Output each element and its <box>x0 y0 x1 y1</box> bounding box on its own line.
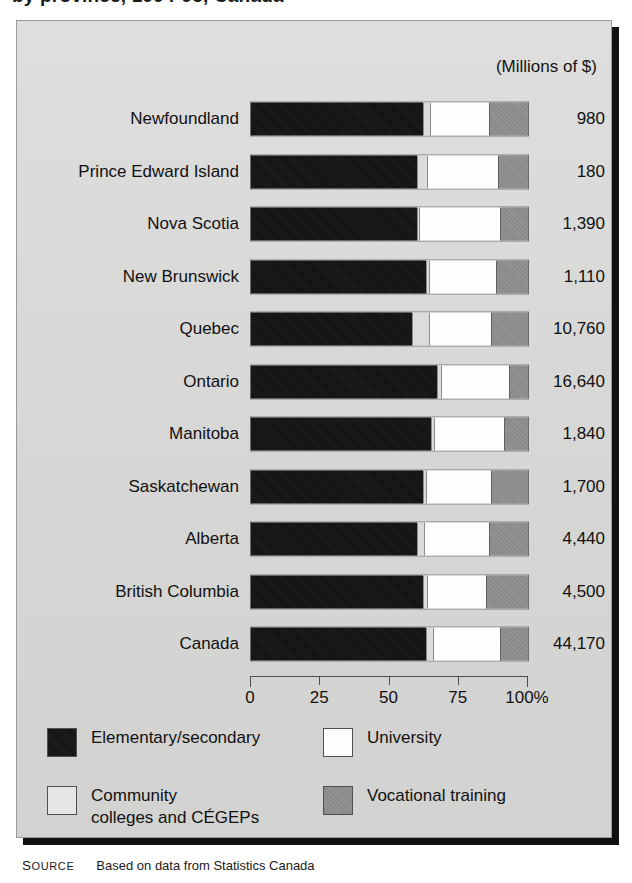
bar-segment-community <box>423 103 431 136</box>
bar-segment-vocational <box>500 208 528 241</box>
axis-tick-label: 50 <box>379 688 398 708</box>
legend-item-university: University <box>323 727 442 757</box>
axis-tick-label: 100% <box>505 688 548 708</box>
chart-legend: Elementary/secondary University Communit… <box>41 727 589 843</box>
bar-row: Manitoba1,840 <box>17 408 613 461</box>
bar-segment-community <box>426 628 434 661</box>
bar-segment-vocational <box>486 575 528 608</box>
bar-row: Alberta4,440 <box>17 513 613 566</box>
stacked-bar <box>250 312 529 347</box>
legend-label-vocational: Vocational training <box>367 785 506 807</box>
bar-row-label: Saskatchewan <box>17 477 239 497</box>
bar-row-value: 180 <box>533 162 605 182</box>
stacked-bar <box>250 207 529 242</box>
bar-row: Ontario16,640 <box>17 356 613 409</box>
source-text: Based on data from Statistics Canada <box>96 858 314 873</box>
bar-row-label: Manitoba <box>17 424 239 444</box>
bar-row-label: Newfoundland <box>17 109 239 129</box>
bar-row-value: 1,700 <box>533 477 605 497</box>
stacked-bar <box>250 469 529 504</box>
bar-segment-university <box>442 365 508 398</box>
bar-segment-elementary <box>251 103 423 136</box>
bar-segment-university <box>434 628 500 661</box>
bar-segment-elementary <box>251 628 426 661</box>
bar-row-value: 1,390 <box>533 214 605 234</box>
bar-segment-vocational <box>500 628 528 661</box>
bar-segment-university <box>428 575 486 608</box>
units-caption: (Millions of $) <box>496 57 597 77</box>
legend-swatch-community-icon <box>47 786 77 815</box>
stacked-bar <box>250 417 529 452</box>
x-axis: 0255075100% <box>250 676 527 692</box>
bar-row: Newfoundland980 <box>17 93 613 146</box>
bar-segment-elementary <box>251 260 426 293</box>
stacked-bar <box>250 627 529 662</box>
bar-segment-elementary <box>251 313 412 346</box>
axis-tick <box>527 676 528 687</box>
bar-segment-elementary <box>251 365 437 398</box>
legend-row-1: Elementary/secondary University <box>41 727 589 785</box>
bar-row-value: 1,840 <box>533 424 605 444</box>
bar-segment-elementary <box>251 523 417 556</box>
stacked-bar <box>250 364 529 399</box>
bar-row-value: 10,760 <box>533 319 605 339</box>
bar-segment-university <box>430 313 491 346</box>
source-kicker: SOURCE <box>22 858 74 873</box>
bar-row-label: Prince Edward Island <box>17 162 239 182</box>
bar-segment-vocational <box>498 155 528 188</box>
stacked-bar <box>250 522 529 557</box>
legend-swatch-elementary-icon <box>47 728 77 757</box>
legend-swatch-university-icon <box>323 728 353 757</box>
axis-tick <box>319 676 320 685</box>
bar-row-value: 980 <box>533 109 605 129</box>
axis-tick <box>389 676 390 685</box>
stacked-bar <box>250 259 529 294</box>
bar-row-label: Alberta <box>17 529 239 549</box>
bar-segment-community <box>417 155 428 188</box>
bar-segment-elementary <box>251 418 431 451</box>
chart-title-clipped: by province, 1994-95, Canada <box>0 0 632 14</box>
bar-row-label: New Brunswick <box>17 267 239 287</box>
axis-tick <box>250 676 251 687</box>
bar-segment-vocational <box>496 260 528 293</box>
bar-row: Prince Edward Island180 <box>17 146 613 199</box>
bar-segment-community <box>412 313 430 346</box>
bar-row-label: British Columbia <box>17 582 239 602</box>
bar-segment-university <box>427 470 491 503</box>
axis-tick <box>458 676 459 685</box>
bar-segment-university <box>428 155 497 188</box>
axis-tick-label: 0 <box>245 688 254 708</box>
bar-row: Saskatchewan1,700 <box>17 461 613 514</box>
legend-label-community: Community colleges and CÉGEPs <box>91 785 259 829</box>
stacked-bar <box>250 102 529 137</box>
bar-segment-elementary <box>251 155 417 188</box>
bar-segment-community <box>417 523 425 556</box>
bar-segment-university <box>425 523 489 556</box>
bar-row-value: 16,640 <box>533 372 605 392</box>
page-title: by province, 1994-95, Canada <box>12 0 284 7</box>
bar-segment-elementary <box>251 470 423 503</box>
bar-row-value: 4,440 <box>533 529 605 549</box>
legend-item-elementary: Elementary/secondary <box>47 727 260 757</box>
source-note: SOURCE Based on data from Statistics Can… <box>22 858 315 873</box>
bar-row: Canada44,170 <box>17 618 613 671</box>
bar-segment-vocational <box>509 365 528 398</box>
bar-segment-university <box>431 103 489 136</box>
legend-item-vocational: Vocational training <box>323 785 506 815</box>
legend-swatch-vocational-icon <box>323 786 353 815</box>
bar-segment-university <box>435 418 504 451</box>
bar-segment-vocational <box>489 103 528 136</box>
chart-figure-panel: (Millions of $) Newfoundland980Prince Ed… <box>16 20 612 838</box>
legend-label-university: University <box>367 727 442 749</box>
bar-row-value: 44,170 <box>533 634 605 654</box>
bar-row-label: Quebec <box>17 319 239 339</box>
bar-segment-vocational <box>491 313 528 346</box>
bar-segment-vocational <box>489 523 528 556</box>
legend-row-2: Community colleges and CÉGEPs Vocational… <box>41 785 589 843</box>
bar-segment-vocational <box>491 470 528 503</box>
bar-row: British Columbia4,500 <box>17 566 613 619</box>
bar-segment-elementary <box>251 575 423 608</box>
legend-item-community: Community colleges and CÉGEPs <box>47 785 259 829</box>
bar-row-value: 4,500 <box>533 582 605 602</box>
bar-segment-university <box>430 260 496 293</box>
